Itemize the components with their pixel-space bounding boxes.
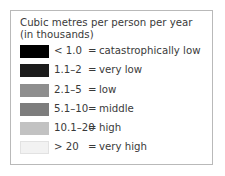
legend-entry: 1.1–2=very low: [11, 62, 212, 81]
legend-range-label: 5.1–10: [54, 102, 88, 116]
legend-description-label: catastrophically low: [99, 44, 201, 58]
color-swatch: [20, 103, 49, 116]
legend-entry-list: < 1.0=catastrophically low1.1–2=very low…: [11, 43, 212, 159]
legend-title: Cubic metres per person per year (in tho…: [20, 17, 210, 41]
legend-equals-sign: =: [88, 63, 97, 77]
legend-equals-sign: =: [88, 83, 97, 97]
legend-entry: < 1.0=catastrophically low: [11, 43, 212, 62]
legend-range-label: < 1.0: [54, 44, 82, 58]
legend-equals-sign: =: [88, 140, 97, 154]
legend-description-label: middle: [99, 102, 134, 116]
legend-entry: 10.1–20=high: [11, 120, 212, 139]
legend-equals-sign: =: [88, 102, 97, 116]
legend-range-label: > 20: [54, 140, 79, 154]
legend-entry: 5.1–10=middle: [11, 101, 212, 120]
legend-description-label: very low: [99, 63, 142, 77]
legend-description-label: low: [99, 83, 116, 97]
color-swatch: [20, 141, 49, 154]
color-swatch: [20, 122, 49, 135]
legend-equals-sign: =: [88, 121, 97, 135]
color-swatch: [20, 64, 49, 77]
color-swatch: [20, 84, 49, 97]
legend-range-label: 2.1–5: [54, 83, 82, 97]
legend-entry: > 20=very high: [11, 139, 212, 158]
legend-range-label: 1.1–2: [54, 63, 82, 77]
legend-entry: 2.1–5=low: [11, 82, 212, 101]
legend-equals-sign: =: [88, 44, 97, 58]
legend-description-label: high: [99, 121, 121, 135]
color-swatch: [20, 45, 49, 58]
legend-panel: Cubic metres per person per year (in tho…: [10, 10, 213, 165]
legend-description-label: very high: [99, 140, 147, 154]
